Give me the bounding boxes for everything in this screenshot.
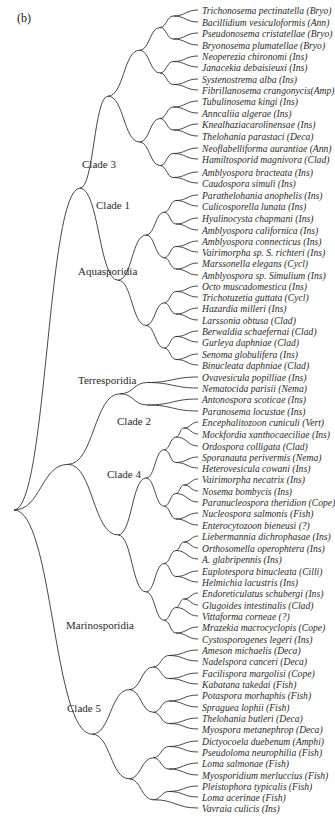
branch	[68, 394, 120, 465]
leaf-label: Sporanauta perivermis (Nema)	[202, 452, 321, 463]
leaf-label: Heterovesicula cowani (Ins)	[202, 463, 310, 474]
branch	[184, 599, 198, 605]
branch	[153, 667, 169, 679]
branch	[169, 786, 198, 792]
leaf-label: Parathelohania anophelis (Ins)	[202, 190, 322, 201]
leaf-label: Pseudonosema cristatellae (Bryo)	[202, 28, 333, 39]
branch	[146, 478, 164, 506]
branch	[176, 314, 198, 320]
branch	[129, 758, 153, 779]
branch	[80, 96, 108, 188]
branch	[173, 10, 198, 16]
branch	[169, 679, 198, 685]
branch	[92, 734, 129, 779]
branch	[160, 62, 173, 74]
branch	[146, 450, 164, 478]
leaf-label: Ameson michaelis (Deca)	[202, 645, 301, 656]
panel-label: (b)	[17, 11, 31, 26]
branch	[108, 96, 140, 142]
branch	[173, 107, 198, 113]
branch	[160, 166, 173, 178]
branch	[176, 263, 198, 269]
branch	[176, 513, 198, 519]
branch	[176, 633, 198, 639]
leaf-label: Systenostrema alba (Ins)	[202, 74, 297, 85]
leaf-label: Neoflabelliforma aurantiae (Ann)	[202, 143, 332, 154]
branch	[164, 201, 176, 213]
leaf-label: Dictyocoela duebenum (Amphi)	[202, 736, 324, 747]
branch	[164, 608, 176, 621]
branch	[146, 592, 164, 620]
branch	[169, 695, 198, 701]
clade-label: Clade 5	[67, 702, 101, 714]
leaf-label: Trichotuzetia guttata (Cycl)	[202, 292, 309, 303]
branch	[164, 620, 176, 633]
branch	[176, 247, 198, 253]
leaf-label: Antonospora scoticae (Ins)	[202, 394, 306, 405]
leaf-label: Anncaliia algerae (Ins)	[202, 108, 292, 119]
branch	[176, 354, 198, 360]
leaf-label: Binucleata daphniae (Clad)	[202, 360, 309, 371]
leaf-label: Hamiltosporid magnivora (Clad)	[202, 154, 329, 165]
leaf-label: Hyalinocysta chapmani (Ins)	[202, 213, 313, 224]
branch	[176, 519, 198, 525]
leaf-label: Bryonosema plumatellae (Bryo)	[202, 40, 325, 51]
leaf-label: Gurleya daphniae (Clad)	[202, 337, 299, 348]
leaf-label: Amblyospora connecticus (Ins)	[202, 236, 321, 247]
branch	[173, 79, 198, 85]
branch	[176, 457, 198, 463]
branch	[164, 247, 176, 258]
branch	[176, 428, 184, 437]
branch	[173, 56, 198, 62]
branch	[160, 107, 173, 119]
branch	[153, 758, 169, 769]
leaf-label: Thelohania butleri (Deca)	[202, 713, 303, 724]
branch	[153, 712, 169, 723]
leaf-label: Glugoides intestinalis (Clad)	[202, 600, 313, 611]
leaf-label: Myospora metanephrop (Deca)	[202, 724, 323, 735]
branch	[147, 405, 198, 411]
leaf-label: Culicosporella lunata (Ins)	[202, 201, 306, 212]
branch	[176, 542, 184, 551]
leaf-label: Neoperezia chironomi (Ins)	[202, 51, 307, 62]
branch	[184, 479, 198, 485]
branch	[160, 73, 173, 85]
branch	[176, 599, 184, 608]
leaf-label: Helmichia lacustris (Ins)	[202, 577, 298, 588]
leaf-label: Paranucleospora theridion (Cope)	[202, 497, 335, 508]
branch	[173, 154, 198, 160]
branch	[173, 101, 198, 107]
branch	[176, 485, 184, 494]
branch	[176, 551, 198, 560]
branch	[176, 577, 198, 583]
branch	[153, 656, 169, 668]
branch	[118, 280, 146, 325]
leaf-label: Endoreticulatus schubergi (Ins)	[202, 588, 323, 599]
branch	[146, 235, 164, 258]
leaf-label: Loma salmonae (Fish)	[202, 758, 289, 769]
leaf-label: Amblyospora sp. Simulium (Ins)	[202, 270, 326, 281]
leaf-label: Enterocytozoon bieneusi (?)	[202, 520, 310, 531]
branch	[184, 593, 198, 599]
branch	[176, 292, 198, 298]
branch	[173, 85, 198, 91]
branch	[153, 800, 198, 808]
clade-label: Marinosporidia	[66, 619, 134, 631]
branch	[14, 188, 80, 510]
leaf-label: Facilispora margolisi (Cope)	[202, 668, 315, 679]
branch	[164, 292, 176, 303]
leaf-label: Vavraia culicis (Ins)	[202, 803, 280, 814]
branch	[176, 337, 198, 343]
branch	[169, 741, 198, 747]
leaf-label: Trichonosema pectinatella (Bryo)	[202, 5, 332, 16]
branch	[164, 564, 176, 577]
branch	[184, 428, 198, 434]
leaf-label: Myosporidium merluccius (Fish)	[202, 770, 328, 781]
branch	[140, 119, 160, 143]
branch	[164, 450, 176, 463]
branch	[184, 536, 198, 542]
branch	[169, 747, 198, 753]
clade-label: Clade 2	[117, 415, 151, 427]
branch	[164, 258, 176, 269]
branch	[160, 16, 173, 28]
